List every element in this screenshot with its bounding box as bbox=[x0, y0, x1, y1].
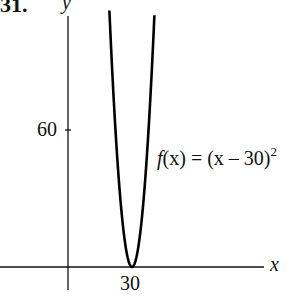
parabola-curve bbox=[109, 10, 154, 267]
plot-canvas bbox=[0, 0, 291, 299]
